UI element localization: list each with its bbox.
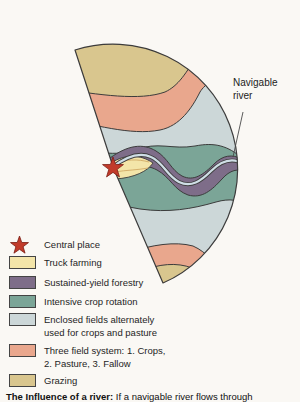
legend-label-line2: 2. Pasture, 3. Fallow <box>44 358 131 369</box>
legend-label-line1: Enclosed fields alternately <box>44 314 154 325</box>
legend-label: Sustained-yield forestry <box>44 276 143 289</box>
legend-label-line2: used for crops and pasture <box>44 327 157 338</box>
legend-item-truck-farming: Truck farming <box>9 256 102 269</box>
legend-label: Central place <box>44 238 100 251</box>
legend-item-grazing: Grazing <box>9 374 77 387</box>
legend: Central place Truck farming Sustained-yi… <box>9 0 289 400</box>
legend-item-intensive-crop: Intensive crop rotation <box>9 295 137 308</box>
legend-label: Three field system: 1. Crops, 2. Pasture… <box>44 344 165 370</box>
legend-label: Grazing <box>44 374 77 387</box>
caption-rest: If a navigable river flows through <box>113 391 252 402</box>
legend-item-three-field: Three field system: 1. Crops, 2. Pasture… <box>9 344 165 370</box>
three-field-swatch <box>9 344 36 357</box>
grazing-swatch <box>9 374 36 387</box>
figure-caption: The Influence of a river: If a navigable… <box>6 391 298 402</box>
legend-label-line1: Three field system: 1. Crops, <box>44 345 165 356</box>
truck-farming-swatch <box>9 256 36 269</box>
forestry-swatch <box>9 276 36 289</box>
legend-label: Truck farming <box>44 256 102 269</box>
legend-item-enclosed-fields: Enclosed fields alternately used for cro… <box>9 313 157 339</box>
legend-label: Intensive crop rotation <box>44 295 137 308</box>
caption-bold: The Influence of a river: <box>6 391 113 402</box>
legend-item-forestry: Sustained-yield forestry <box>9 276 143 289</box>
star-icon <box>9 236 36 258</box>
intensive-crop-swatch <box>9 295 36 308</box>
legend-label: Enclosed fields alternately used for cro… <box>44 313 157 339</box>
legend-item-central-place: Central place <box>9 236 100 258</box>
enclosed-fields-swatch <box>9 313 36 326</box>
